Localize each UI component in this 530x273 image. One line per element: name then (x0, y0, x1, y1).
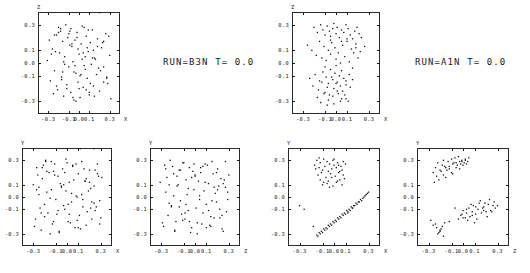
y-tick-label: -0.1 (268, 73, 289, 79)
x-tick (323, 243, 324, 246)
y-tick (292, 50, 295, 51)
y-tick (109, 209, 112, 210)
x-tick (325, 12, 326, 15)
x-tick (69, 111, 70, 114)
x-tick (206, 243, 207, 246)
scatter-panel-a1n-yz: -0.3-0.10.00.10.3-0.3-0.10.00.10.3YZ (417, 148, 509, 246)
y-tick (237, 197, 240, 198)
y-tick (109, 234, 112, 235)
x-tick (334, 148, 335, 151)
x-tick (161, 243, 162, 246)
x-axis-name: Z (244, 248, 247, 254)
y-tick (38, 76, 41, 77)
x-axis-name: X (124, 116, 127, 122)
x-tick-label: 0.1 (336, 116, 358, 122)
y-tick-label: 0.0 (264, 194, 285, 200)
x-tick-label: 0.1 (335, 248, 357, 254)
y-tick (150, 197, 153, 198)
x-tick (303, 12, 304, 15)
x-axis-name: Z (513, 248, 516, 254)
y-tick (288, 209, 291, 210)
y-tick-label: 0.3 (264, 157, 285, 163)
y-tick (150, 209, 153, 210)
x-tick (325, 111, 326, 114)
y-tick-label: 0.1 (264, 182, 285, 188)
y-tick (417, 209, 420, 210)
y-tick (22, 209, 25, 210)
y-axis-name: Y (287, 140, 290, 146)
y-tick (417, 234, 420, 235)
x-tick (369, 111, 370, 114)
y-tick (377, 160, 380, 161)
x-tick-label: -0.3 (418, 248, 440, 254)
x-tick-label: 0.3 (358, 116, 380, 122)
y-tick-label: 0.3 (0, 157, 19, 163)
x-tick (101, 243, 102, 246)
y-tick-label: 0.1 (14, 47, 35, 53)
x-tick (336, 12, 337, 15)
x-tick (89, 111, 90, 114)
x-tick (498, 148, 499, 151)
x-tick-label: 0.3 (99, 116, 121, 122)
y-tick (237, 209, 240, 210)
x-tick (184, 148, 185, 151)
x-tick (323, 148, 324, 151)
x-tick (56, 243, 57, 246)
y-tick (506, 160, 509, 161)
y-tick-label: -0.1 (264, 206, 285, 212)
y-tick (417, 197, 420, 198)
x-tick-label: -0.3 (292, 116, 314, 122)
x-tick (475, 148, 476, 151)
x-tick-label: -0.3 (150, 248, 172, 254)
y-tick-label: 0.1 (126, 182, 147, 188)
y-tick (22, 234, 25, 235)
y-tick (292, 76, 295, 77)
y-tick-label: 0.0 (0, 194, 19, 200)
x-tick (463, 243, 464, 246)
y-tick (377, 50, 380, 51)
y-tick-label: -0.3 (393, 231, 414, 237)
x-tick (48, 12, 49, 15)
y-tick (150, 185, 153, 186)
y-tick (417, 160, 420, 161)
y-tick-label: 0.3 (268, 22, 289, 28)
y-tick (506, 234, 509, 235)
scatter-points (292, 12, 380, 114)
x-tick (347, 12, 348, 15)
figure-canvas: -0.3-0.10.00.10.3-0.3-0.10.00.10.3ZX -0.… (0, 0, 530, 273)
x-tick (206, 148, 207, 151)
x-tick-label: 0.3 (90, 248, 112, 254)
x-tick (79, 111, 80, 114)
y-tick (288, 234, 291, 235)
x-tick-label: 0.1 (464, 248, 486, 254)
x-tick (347, 111, 348, 114)
y-tick-label: 0.0 (393, 194, 414, 200)
x-tick (48, 111, 49, 114)
y-tick (417, 185, 420, 186)
y-tick (237, 234, 240, 235)
x-tick (452, 148, 453, 151)
x-tick (33, 243, 34, 246)
y-tick (38, 25, 41, 26)
x-axis-name: X (384, 248, 387, 254)
scatter-panel-b3n-yz: -0.3-0.10.00.10.3-0.3-0.10.00.10.3YZ (150, 148, 240, 246)
x-tick (429, 148, 430, 151)
scatter-points (150, 148, 240, 246)
x-tick-label: 0.3 (487, 248, 509, 254)
x-tick (78, 243, 79, 246)
y-tick-label: -0.1 (0, 206, 19, 212)
scatter-panel-a1n-yx: -0.3-0.10.00.10.3-0.3-0.10.00.10.3YX (288, 148, 380, 246)
x-tick (67, 243, 68, 246)
y-tick (109, 160, 112, 161)
y-tick (117, 25, 120, 26)
x-tick-label: -0.3 (289, 248, 311, 254)
run-label-b3n: RUN=B3N T= 0.0 (163, 57, 254, 68)
y-axis-name: Y (21, 140, 24, 146)
x-tick (429, 243, 430, 246)
y-tick (506, 209, 509, 210)
x-tick (89, 12, 90, 15)
y-tick (117, 50, 120, 51)
x-tick (110, 111, 111, 114)
y-tick (292, 63, 295, 64)
y-tick (288, 197, 291, 198)
